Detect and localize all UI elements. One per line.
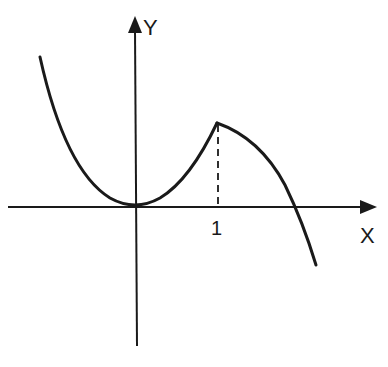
x-axis-arrow-icon bbox=[360, 200, 377, 214]
y-axis-arrow-icon bbox=[128, 16, 142, 33]
y-axis-label: Y bbox=[143, 15, 158, 40]
graph-svg: Y X 1 bbox=[0, 0, 388, 367]
tick-label-1: 1 bbox=[211, 217, 222, 239]
function-graph-diagram: Y X 1 bbox=[0, 0, 388, 367]
curve-left-branch bbox=[40, 57, 217, 205]
x-axis-label: X bbox=[360, 223, 375, 248]
curve-right-branch bbox=[217, 123, 316, 265]
y-axis bbox=[135, 30, 137, 346]
